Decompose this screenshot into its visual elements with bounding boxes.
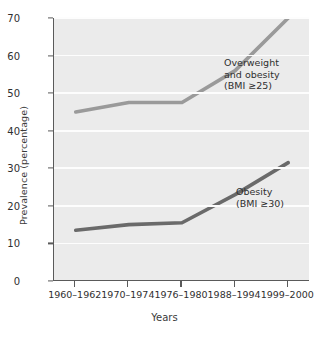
y-tick-mark — [48, 130, 54, 131]
x-tick-mark — [127, 281, 128, 287]
y-tick-mark — [48, 243, 54, 244]
y-tick-label: 10 — [0, 238, 20, 249]
x-tick-mark — [234, 281, 235, 287]
y-tick-label: 0 — [0, 276, 20, 287]
y-tick-mark — [48, 55, 54, 56]
gridline — [54, 92, 309, 94]
chart-figure: Prevalence (percentage) 0102030405060701… — [0, 0, 329, 338]
y-tick-label: 50 — [0, 88, 20, 99]
y-tick-label: 20 — [0, 200, 20, 211]
y-tick-label: 60 — [0, 50, 20, 61]
annotation-obesity: Obesity (BMI ≥30) — [236, 186, 284, 209]
y-tick-label: 70 — [0, 13, 20, 24]
x-tick-label: 1970–1974 — [101, 289, 154, 300]
x-tick-mark — [287, 281, 288, 287]
x-tick-mark — [74, 281, 75, 287]
x-tick-label: 1976–1980 — [154, 289, 207, 300]
y-tick-mark — [48, 205, 54, 206]
x-tick-mark — [180, 281, 181, 287]
gridline — [54, 167, 309, 169]
y-tick-mark — [48, 93, 54, 94]
annotation-line: and obesity — [224, 69, 280, 81]
x-axis-title: Years — [0, 312, 329, 323]
y-tick-mark — [48, 168, 54, 169]
y-tick-label: 40 — [0, 125, 20, 136]
gridline — [54, 130, 309, 132]
y-tick-label: 30 — [0, 163, 20, 174]
annotation-line: (BMI ≥25) — [224, 80, 280, 92]
y-tick-mark — [48, 280, 54, 281]
annotation-line: (BMI ≥30) — [236, 198, 284, 210]
x-tick-label: 1960–1962 — [48, 289, 101, 300]
x-tick-label: 1988–1994 — [208, 289, 261, 300]
gridline — [54, 17, 309, 19]
annotation-line: Obesity — [236, 186, 284, 198]
gridline — [54, 243, 309, 245]
annotation-line: Overweight — [224, 57, 280, 69]
annotation-overweight-and-obesity: Overweight and obesity (BMI ≥25) — [224, 57, 280, 92]
x-tick-label: 1999–2000 — [261, 289, 314, 300]
y-tick-mark — [48, 17, 54, 18]
